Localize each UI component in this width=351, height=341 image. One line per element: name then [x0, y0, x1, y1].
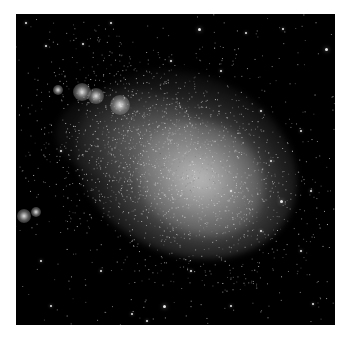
star — [325, 48, 328, 51]
star-grain-field — [16, 14, 335, 325]
star — [110, 22, 112, 24]
star — [190, 270, 192, 272]
nebula-knot — [110, 95, 130, 115]
star — [280, 200, 283, 203]
star — [270, 160, 272, 162]
star — [260, 110, 262, 112]
star — [260, 230, 262, 232]
nebula-knot — [88, 88, 104, 104]
nebula-knot — [17, 209, 31, 223]
star — [60, 150, 62, 152]
star — [245, 32, 247, 34]
star — [230, 305, 232, 307]
star — [198, 28, 201, 31]
star — [50, 305, 52, 307]
star — [146, 320, 148, 322]
star — [282, 28, 284, 30]
star — [100, 270, 102, 272]
galaxy-image — [16, 14, 335, 325]
star — [170, 60, 172, 62]
star — [82, 43, 84, 45]
nebula-knot — [31, 207, 41, 217]
nebula-knot — [53, 85, 63, 95]
star — [25, 22, 27, 24]
star — [310, 190, 312, 192]
star — [300, 250, 302, 252]
star — [300, 130, 302, 132]
star — [40, 260, 42, 262]
star — [45, 45, 47, 47]
star — [230, 190, 232, 192]
star — [220, 70, 222, 72]
star — [312, 303, 314, 305]
star — [131, 313, 133, 315]
star — [163, 305, 166, 308]
